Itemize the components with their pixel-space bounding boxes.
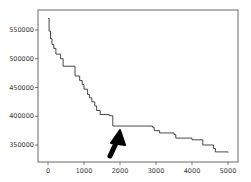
x-tick-label: 4000 bbox=[184, 167, 201, 175]
y-tick-label: 550000 bbox=[9, 26, 34, 34]
x-tick-label: 2000 bbox=[112, 167, 129, 175]
y-tick-label: 400000 bbox=[9, 112, 34, 120]
plot-frame bbox=[38, 10, 238, 162]
x-tick-label: 3000 bbox=[148, 167, 165, 175]
y-tick-label: 350000 bbox=[9, 141, 34, 149]
x-tick-label: 0 bbox=[46, 167, 50, 175]
x-tick-label: 1000 bbox=[76, 167, 93, 175]
chart: 350000400000450000500000550000 010002000… bbox=[0, 0, 251, 182]
x-tick-label: 5000 bbox=[220, 167, 237, 175]
y-axis-ticks: 350000400000450000500000550000 bbox=[9, 26, 38, 149]
x-axis-ticks: 010002000300040005000 bbox=[46, 162, 236, 175]
y-tick-label: 450000 bbox=[9, 84, 34, 92]
y-tick-label: 500000 bbox=[9, 55, 34, 63]
